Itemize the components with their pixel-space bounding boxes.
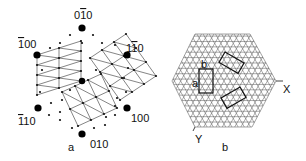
pole-label: 100 [131, 112, 149, 124]
unit-cell-rect [199, 69, 213, 93]
pole-label: 110 [126, 42, 144, 54]
pole-p_100-icon [123, 104, 130, 111]
pole-label: 010 [90, 138, 108, 150]
panel-b-caption: b [222, 141, 228, 153]
lattice-points [36, 40, 82, 96]
pole-p_0m10-icon [78, 24, 85, 31]
lattice-a-label: a [192, 77, 199, 89]
lattice-mesh [62, 74, 117, 126]
pole-center-icon [79, 78, 85, 84]
pole-label: 010 [74, 9, 92, 21]
y-axis-line [193, 127, 195, 131]
lattice-mesh [90, 34, 156, 100]
pole-p_m100-icon [33, 51, 40, 58]
pole-p_010-icon [78, 130, 85, 137]
y-axis-label: Y [195, 133, 203, 145]
pole-p_m110-icon [34, 104, 41, 111]
figure: 010100110110100010a XYbab [0, 0, 306, 161]
pole-label: 110 [18, 115, 36, 127]
stereographic-projection-panel: 010100110110100010a [18, 9, 157, 153]
triangular-lattice [0, 11, 306, 151]
x-axis-label: X [283, 83, 291, 95]
pole-label: 100 [18, 38, 36, 50]
panel-a-caption: a [68, 141, 75, 153]
lattice-b-label: b [201, 58, 207, 70]
